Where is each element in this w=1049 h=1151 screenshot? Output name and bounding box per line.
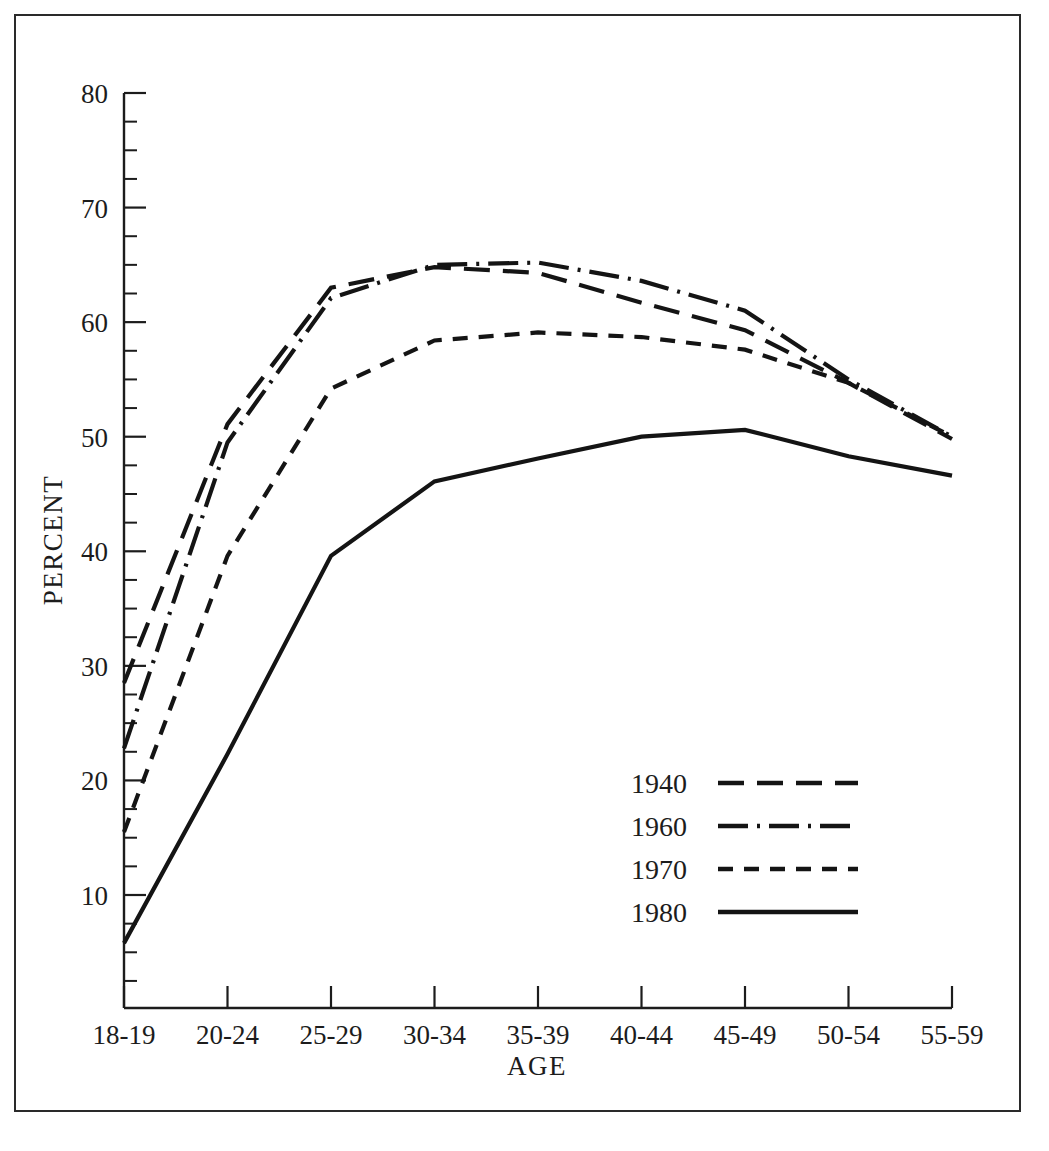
y-tick-label: 40 (81, 537, 108, 567)
series-line-1980 (124, 430, 952, 943)
y-tick-label: 10 (81, 881, 108, 911)
y-tick-label: 50 (81, 423, 108, 453)
x-tick-label: 18-19 (93, 1020, 156, 1050)
y-axis-tick-labels: 1020304050607080 (81, 79, 108, 911)
series-line-1970 (124, 332, 952, 832)
x-tick-label: 50-54 (817, 1020, 880, 1050)
x-tick-label: 30-34 (403, 1020, 466, 1050)
chart-legend: 1940196019701980 (631, 768, 858, 928)
x-axis-tick-labels: 18-1920-2425-2930-3435-3940-4445-4950-54… (93, 1020, 984, 1050)
x-tick-label: 35-39 (507, 1020, 570, 1050)
x-axis-ticks (124, 986, 952, 1008)
y-tick-label: 20 (81, 766, 108, 796)
legend-label-1980: 1980 (631, 897, 687, 928)
legend-label-1970: 1970 (631, 854, 687, 885)
x-tick-label: 25-29 (300, 1020, 363, 1050)
y-tick-label: 30 (81, 652, 108, 682)
x-tick-label: 20-24 (196, 1020, 259, 1050)
data-series-group (124, 263, 952, 944)
x-tick-label: 45-49 (714, 1020, 777, 1050)
y-tick-label: 70 (81, 194, 108, 224)
series-line-1940 (124, 267, 952, 683)
y-tick-label: 60 (81, 308, 108, 338)
series-line-1960 (124, 263, 952, 749)
legend-label-1940: 1940 (631, 768, 687, 799)
chart-plot-area: 1020304050607080 18-1920-2425-2930-3435-… (0, 0, 1049, 1151)
y-tick-label: 80 (81, 79, 108, 109)
line-chart: 1020304050607080 18-1920-2425-2930-3435-… (0, 0, 1049, 1151)
y-axis-title: PERCENT (38, 475, 68, 606)
legend-label-1960: 1960 (631, 811, 687, 842)
x-tick-label: 40-44 (610, 1020, 673, 1050)
x-axis-title: AGE (507, 1051, 567, 1081)
x-tick-label: 55-59 (921, 1020, 984, 1050)
